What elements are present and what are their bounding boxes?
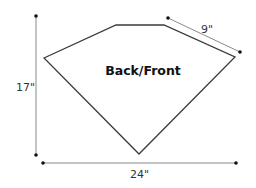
width-dimension-left-dot (41, 161, 45, 165)
pattern-diagram: 17" 24" 9" Back/Front (0, 0, 256, 188)
width-dimension-label: 24" (130, 168, 149, 181)
side-dimension-label: 9" (201, 23, 213, 36)
height-dimension-top-dot (34, 14, 38, 18)
side-dimension-top-dot (166, 16, 170, 20)
height-dimension-bottom-dot (34, 153, 38, 157)
back-front-pattern-piece (44, 25, 235, 154)
side-dimension-bottom-dot (238, 50, 242, 54)
height-dimension-label: 17" (16, 81, 35, 94)
width-dimension-right-dot (234, 161, 238, 165)
piece-label: Back/Front (105, 63, 181, 78)
